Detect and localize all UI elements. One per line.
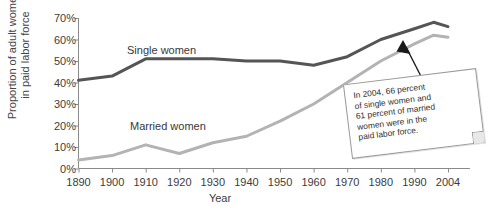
x-tick-label: 1930 [201,176,225,188]
x-tick-label: 1900 [100,176,124,188]
x-axis-title: Year [0,192,440,204]
page-curl-icon [472,131,485,144]
x-tick-label: 1950 [268,176,292,188]
x-tick-label: 1940 [234,176,258,188]
x-tick-label: 1970 [335,176,359,188]
x-tick-label: 1990 [402,176,426,188]
x-tick-label: 2004 [436,176,460,188]
x-tick-label: 1910 [133,176,157,188]
chart-figure: Proportion of adult women in paid labor … [0,0,499,213]
x-tick-label: 1980 [369,176,393,188]
series-label-married-women: Married women [130,120,206,132]
x-tick-label: 1920 [167,176,191,188]
series-label-single-women: Single women [127,44,196,56]
x-tick-label: 1960 [301,176,325,188]
x-tick-label: 1890 [66,176,90,188]
